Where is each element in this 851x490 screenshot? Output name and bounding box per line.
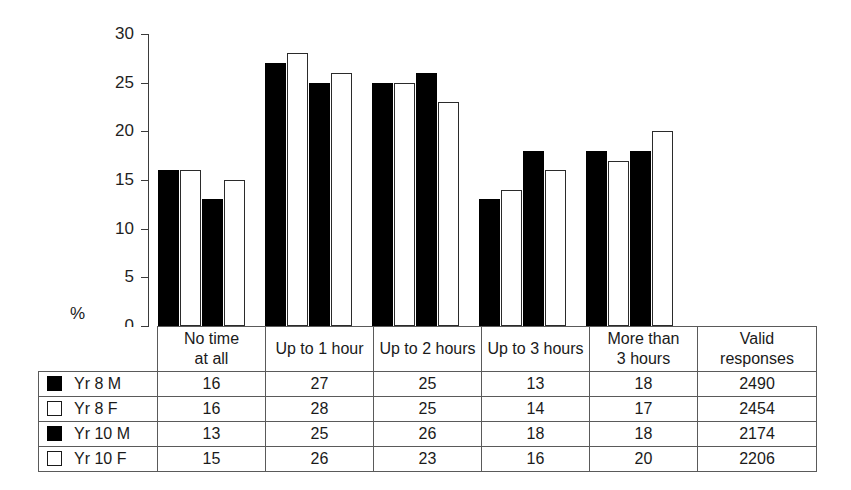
table-cell: 2454 bbox=[698, 397, 817, 422]
y-tick-label-text: 25 bbox=[100, 74, 134, 91]
bar bbox=[158, 170, 179, 326]
column-header-cell: Up to 3 hours bbox=[482, 327, 590, 372]
bar bbox=[586, 151, 607, 326]
table-cell: 18 bbox=[590, 372, 698, 397]
table-cell: 16 bbox=[482, 447, 590, 472]
bar-group bbox=[469, 34, 576, 326]
y-tick-label-text: 5 bbox=[100, 268, 134, 285]
table-cell: 28 bbox=[266, 397, 374, 422]
plot-area bbox=[148, 34, 805, 326]
open-square-icon bbox=[47, 451, 62, 466]
bar-group bbox=[255, 34, 362, 326]
legend-cell: Yr 8 M bbox=[39, 372, 158, 397]
legend-header-cell bbox=[39, 327, 158, 372]
column-header-cell: Validresponses bbox=[698, 327, 817, 372]
y-tick-label-text: 15 bbox=[100, 171, 134, 188]
table-cell: 25 bbox=[266, 422, 374, 447]
legend-cell: Yr 10 M bbox=[39, 422, 158, 447]
table-cell: 26 bbox=[374, 422, 482, 447]
table-header-row: No timeat allUp to 1 hourUp to 2 hoursUp… bbox=[39, 327, 817, 372]
bar bbox=[652, 131, 673, 326]
legend-label: Yr 8 M bbox=[74, 375, 121, 392]
table-cell: 2174 bbox=[698, 422, 817, 447]
table-cell: 18 bbox=[590, 422, 698, 447]
table-cell: 25 bbox=[374, 372, 482, 397]
bar bbox=[394, 83, 415, 326]
bar bbox=[265, 63, 286, 326]
table-cell: 20 bbox=[590, 447, 698, 472]
bar-group bbox=[576, 34, 683, 326]
data-table: No timeat allUp to 1 hourUp to 2 hoursUp… bbox=[38, 326, 817, 472]
bar bbox=[630, 151, 651, 326]
legend-label: Yr 10 F bbox=[74, 450, 126, 467]
table-cell: 25 bbox=[374, 397, 482, 422]
table-cell: 17 bbox=[590, 397, 698, 422]
table-row: Yr 8 M16272513182490 bbox=[39, 372, 817, 397]
bar bbox=[523, 151, 544, 326]
bar bbox=[287, 53, 308, 326]
legend-cell: Yr 8 F bbox=[39, 397, 158, 422]
bar bbox=[202, 199, 223, 326]
filled-square-icon bbox=[47, 426, 62, 441]
bar bbox=[438, 102, 459, 326]
table-cell: 2490 bbox=[698, 372, 817, 397]
table-cell: 14 bbox=[482, 397, 590, 422]
column-header-line: Up to 2 hours bbox=[374, 339, 481, 359]
table-cell: 15 bbox=[158, 447, 266, 472]
table-cell: 16 bbox=[158, 397, 266, 422]
column-header-line: Up to 3 hours bbox=[482, 339, 589, 359]
column-header-line: responses bbox=[698, 349, 816, 369]
y-tick-label-text: 10 bbox=[100, 220, 134, 237]
column-header-cell: More than3 hours bbox=[590, 327, 698, 372]
bar-group bbox=[362, 34, 469, 326]
table-cell: 13 bbox=[482, 372, 590, 397]
y-axis-unit-label: % bbox=[70, 305, 85, 322]
y-tick-label: 10 bbox=[96, 220, 134, 237]
column-header-line: No time bbox=[158, 329, 265, 349]
bar bbox=[224, 180, 245, 326]
legend-cell: Yr 10 F bbox=[39, 447, 158, 472]
bar bbox=[545, 170, 566, 326]
table-cell: 13 bbox=[158, 422, 266, 447]
y-tick-label-text: 30 bbox=[100, 25, 134, 42]
y-tick-label: 20 bbox=[96, 122, 134, 139]
legend-label: Yr 8 F bbox=[74, 400, 118, 417]
bar bbox=[501, 190, 522, 326]
table-cell: 18 bbox=[482, 422, 590, 447]
bar bbox=[331, 73, 352, 326]
y-tick-label: 15 bbox=[96, 171, 134, 188]
y-tick-label: 5 bbox=[96, 268, 134, 285]
table-row: Yr 10 M13252618182174 bbox=[39, 422, 817, 447]
column-header-line: Up to 1 hour bbox=[266, 339, 373, 359]
column-header-line: at all bbox=[158, 349, 265, 369]
column-header-line: More than bbox=[590, 329, 697, 349]
y-tick-label: 30 bbox=[96, 25, 134, 42]
table-cell: 2206 bbox=[698, 447, 817, 472]
table-row: Yr 8 F16282514172454 bbox=[39, 397, 817, 422]
column-header-cell: Up to 1 hour bbox=[266, 327, 374, 372]
bar bbox=[372, 83, 393, 326]
y-tick-label: 25 bbox=[96, 74, 134, 91]
column-header-cell: No timeat all bbox=[158, 327, 266, 372]
bar bbox=[608, 161, 629, 326]
column-header-cell: Up to 2 hours bbox=[374, 327, 482, 372]
open-square-icon bbox=[47, 401, 62, 416]
bar bbox=[416, 73, 437, 326]
column-header-line: Valid bbox=[698, 329, 816, 349]
table-row: Yr 10 F15262316202206 bbox=[39, 447, 817, 472]
bar bbox=[309, 83, 330, 326]
table-cell: 23 bbox=[374, 447, 482, 472]
table-cell: 16 bbox=[158, 372, 266, 397]
table-cell: 27 bbox=[266, 372, 374, 397]
bar bbox=[479, 199, 500, 326]
filled-square-icon bbox=[47, 376, 62, 391]
legend-label: Yr 10 M bbox=[74, 425, 130, 442]
y-tick-label-text: 20 bbox=[100, 122, 134, 139]
bar bbox=[180, 170, 201, 326]
column-header-line: 3 hours bbox=[590, 349, 697, 369]
table-cell: 26 bbox=[266, 447, 374, 472]
bar-group bbox=[148, 34, 255, 326]
